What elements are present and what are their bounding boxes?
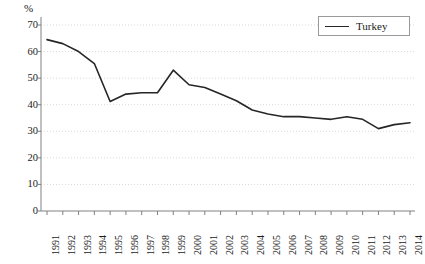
x-axis-tick-label: 2011 <box>367 235 377 255</box>
x-axis-tick-label: 1993 <box>83 235 93 255</box>
x-axis-tick-label: 1996 <box>130 235 140 255</box>
x-axis-tick-label: 2007 <box>304 235 314 255</box>
x-axis-tick-labels: 1991199219931994199519961997199819992000… <box>0 0 425 264</box>
x-axis-tick-label: 2000 <box>193 235 203 255</box>
legend-label-turkey: Turkey <box>356 20 387 32</box>
x-axis-tick-label: 2005 <box>272 235 282 255</box>
x-axis-tick-label: 2003 <box>240 235 250 255</box>
x-axis-tick-label: 1992 <box>67 235 77 255</box>
x-axis-tick-label: 2009 <box>335 235 345 255</box>
x-axis-tick-label: 2012 <box>382 235 392 255</box>
x-axis-tick-label: 2001 <box>209 235 219 255</box>
line-chart: % 706050403020100 1991199219931994199519… <box>0 0 425 264</box>
legend: Turkey <box>318 16 410 36</box>
x-axis-tick-label: 1999 <box>177 235 187 255</box>
legend-line-swatch-turkey <box>325 26 349 27</box>
x-axis-tick-label: 2014 <box>414 235 424 255</box>
x-axis-tick-label: 1991 <box>51 235 61 255</box>
x-axis-tick-label: 2002 <box>225 235 235 255</box>
x-axis-tick-label: 2008 <box>319 235 329 255</box>
x-axis-tick-label: 2010 <box>351 235 361 255</box>
x-axis-tick-label: 2006 <box>288 235 298 255</box>
x-axis-tick-label: 1995 <box>114 235 124 255</box>
x-axis-tick-label: 1994 <box>98 235 108 255</box>
x-axis-tick-label: 1997 <box>146 235 156 255</box>
x-axis-tick-label: 2004 <box>256 235 266 255</box>
x-axis-tick-label: 1998 <box>161 235 171 255</box>
x-axis-tick-label: 2013 <box>398 235 408 255</box>
